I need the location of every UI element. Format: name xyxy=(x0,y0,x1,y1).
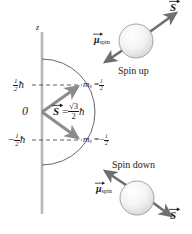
S-vector-symbol: S xyxy=(170,2,176,13)
S-vector-symbol: S xyxy=(170,210,176,221)
spin-down-magnetic-moment-label: μ spin xyxy=(96,184,112,195)
spin-down-caption: Spin down xyxy=(112,160,155,170)
tick-label-zero: 0 xyxy=(22,105,28,117)
tick-label-upper: 1 2 ħ xyxy=(13,78,24,93)
S-vector-symbol: S xyxy=(53,106,59,117)
hbar-symbol: ħ xyxy=(18,78,24,90)
spin-subscript: spin xyxy=(100,38,110,45)
spin-subscript: spin xyxy=(102,187,112,194)
z-axis-label: z xyxy=(36,24,39,32)
spin-up-sphere xyxy=(119,24,153,58)
spin-up-magnetic-moment-label: μ spin xyxy=(94,35,110,46)
mu-vector-symbol: μ xyxy=(96,184,102,194)
tick-label-lower: − 1 2 ħ xyxy=(8,133,25,148)
hbar-symbol: ħ xyxy=(20,133,26,145)
quantum-number-up-label: ms = 1 2 xyxy=(83,79,104,91)
quantum-number-down-label: ms =− 1 2 xyxy=(83,134,109,146)
s-subscript: s xyxy=(90,83,92,89)
hbar-symbol: ħ xyxy=(79,105,85,117)
spin-down-sphere xyxy=(120,181,154,215)
mu-vector-symbol: μ xyxy=(94,35,100,45)
s-subscript: s xyxy=(90,138,92,144)
spin-magnitude-equation: S = √3 2 ħ xyxy=(53,102,85,121)
spin-up-S-label: S xyxy=(170,2,176,13)
spin-down-S-label: S xyxy=(170,210,176,221)
sqrt3-over-2: √3 2 xyxy=(68,102,79,121)
spin-up-caption: Spin up xyxy=(118,66,149,76)
fraction-one-half: 1 2 xyxy=(104,134,109,146)
fraction-one-half: 1 2 xyxy=(99,79,104,91)
